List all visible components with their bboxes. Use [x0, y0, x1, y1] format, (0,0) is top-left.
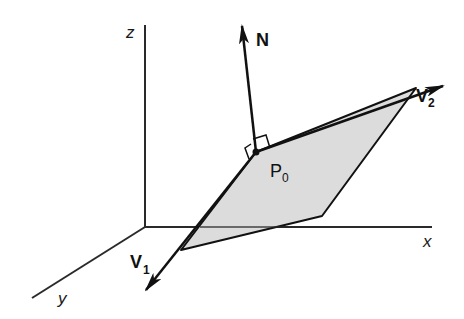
normal-vector-arrow [242, 26, 256, 152]
v2-label: V [416, 86, 428, 106]
v1-subscript: 1 [143, 263, 150, 277]
y-axis-label: y [57, 289, 68, 308]
p0-subscript: 0 [282, 171, 289, 185]
point-p0 [253, 149, 260, 156]
p0-label: P [270, 161, 282, 181]
y-axis [32, 227, 145, 298]
plane-parallelogram [181, 88, 416, 250]
z-axis-label: z [125, 23, 135, 42]
plane-normal-diagram: z x y N V 2 V 1 P 0 [0, 0, 464, 319]
x-axis-label: x [422, 232, 432, 251]
coordinate-axes [32, 25, 432, 298]
v2-subscript: 2 [428, 96, 435, 110]
normal-label: N [256, 30, 269, 50]
v1-label: V [130, 252, 142, 272]
